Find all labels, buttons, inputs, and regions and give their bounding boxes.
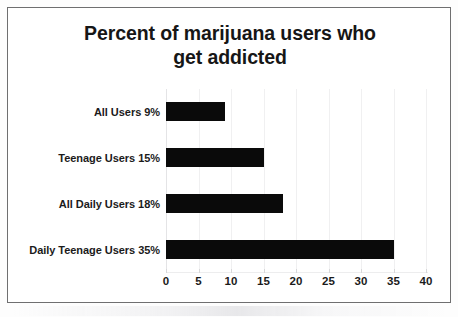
bar-row — [166, 89, 428, 135]
tick-label-5: 5 — [195, 275, 201, 287]
tick-mark-25 — [329, 269, 330, 273]
scanned-page: Percent of marijuana users who get addic… — [0, 0, 458, 317]
plot-area — [166, 89, 428, 273]
category-label: All Users 9% — [94, 106, 164, 118]
category-row: Daily Teenage Users 35% — [18, 227, 164, 273]
bar-row — [166, 181, 428, 227]
scan-artifact — [14, 306, 444, 316]
tick-mark-30 — [361, 269, 362, 273]
bar — [166, 148, 264, 167]
category-row: All Users 9% — [18, 89, 164, 135]
value-axis: 0510152025303540 — [166, 275, 428, 295]
category-label: Daily Teenage Users 35% — [29, 244, 164, 256]
bar — [166, 194, 283, 213]
category-row: Teenage Users 15% — [18, 135, 164, 181]
bar — [166, 240, 394, 259]
bar-row — [166, 227, 428, 273]
bar-series — [166, 89, 428, 273]
tick-mark-0 — [166, 269, 167, 273]
bar-row — [166, 135, 428, 181]
tick-mark-35 — [394, 269, 395, 273]
tick-label-15: 15 — [257, 275, 270, 287]
chart-title-line-1: Percent of marijuana users who — [26, 22, 434, 46]
tick-mark-15 — [264, 269, 265, 273]
tick-label-30: 30 — [355, 275, 368, 287]
category-label: All Daily Users 18% — [59, 198, 164, 210]
tick-mark-40 — [426, 269, 427, 273]
category-label: Teenage Users 15% — [58, 152, 164, 164]
chart-title: Percent of marijuana users who get addic… — [26, 22, 434, 70]
tick-label-35: 35 — [387, 275, 400, 287]
axis-baseline — [166, 272, 428, 273]
tick-mark-10 — [231, 269, 232, 273]
category-axis: All Users 9%Teenage Users 15%All Daily U… — [18, 89, 164, 273]
category-row: All Daily Users 18% — [18, 181, 164, 227]
bar — [166, 102, 225, 121]
tick-label-40: 40 — [420, 275, 433, 287]
chart-frame: Percent of marijuana users who get addic… — [7, 7, 451, 303]
tick-label-0: 0 — [163, 275, 169, 287]
tick-label-20: 20 — [290, 275, 303, 287]
chart-title-line-2: get addicted — [26, 46, 434, 70]
tick-label-25: 25 — [322, 275, 335, 287]
tick-mark-20 — [296, 269, 297, 273]
tick-mark-5 — [199, 269, 200, 273]
tick-label-10: 10 — [225, 275, 238, 287]
